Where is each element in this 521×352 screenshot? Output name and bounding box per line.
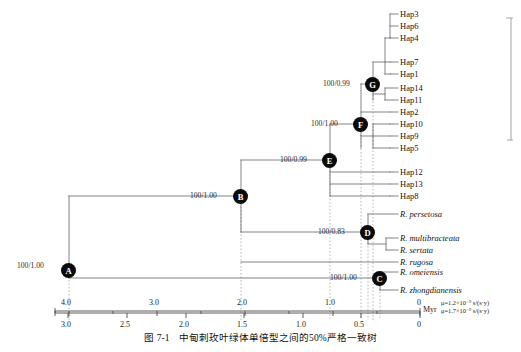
axis-bottom-label-05: 0.5 xyxy=(354,321,364,329)
support-value-node-g: 100/0.99 xyxy=(323,80,350,88)
tip-label-r-sertata: R. sertata xyxy=(400,246,433,255)
axis-bottom-label-15: 1.5 xyxy=(237,321,247,329)
tip-label-hap12: Hap12 xyxy=(400,168,423,177)
axis-top-label-3: 3.0 xyxy=(149,299,159,307)
node-marker-c[interactable]: C xyxy=(372,271,387,286)
tip-label-r-multibracteata: R. multibracteata xyxy=(400,234,460,243)
mutation-rate-top: μ=1.2×10⁻⁹ s/(s·y) xyxy=(441,299,489,306)
support-value-node-a: 100/1.00 xyxy=(17,262,44,270)
support-value-node-e: 100/0.99 xyxy=(280,156,307,164)
support-value-node-b: 100/1.00 xyxy=(190,192,217,200)
tip-label-r-rugosa: R. rugosa xyxy=(400,258,433,267)
node-marker-d[interactable]: D xyxy=(360,225,375,240)
support-value-node-d: 100/0.83 xyxy=(318,228,345,236)
axis-bottom-label-20: 2.0 xyxy=(179,321,189,329)
axis-top xyxy=(55,311,420,316)
tip-label-hap11: Hap11 xyxy=(400,96,422,105)
tip-label-hap6: Hap6 xyxy=(400,22,418,31)
figure-caption: 图 7-1 中甸刺玫叶绿体单倍型之间的50%严格一致树 xyxy=(0,331,521,344)
tip-label-hap14: Hap14 xyxy=(400,84,423,93)
tip-label-hap10: Hap10 xyxy=(400,120,423,129)
tip-label-r-persetosa: R. persetosa xyxy=(400,210,442,219)
axis-top-label-1: 1.0 xyxy=(325,299,335,307)
tree-branches xyxy=(69,14,398,290)
right-bracket xyxy=(506,18,513,140)
figure-caption-label: 图 7-1 xyxy=(144,332,169,343)
node-marker-b[interactable]: B xyxy=(233,189,248,204)
figure-caption-text: 中甸刺玫叶绿体单倍型之间的50%严格一致树 xyxy=(179,332,377,343)
axis-top-label-2: 2.0 xyxy=(237,299,247,307)
support-value-node-f: 100/1.00 xyxy=(311,120,338,128)
node-marker-e[interactable]: E xyxy=(322,153,337,168)
tip-label-hap13: Hap13 xyxy=(400,180,423,189)
node-marker-g[interactable]: G xyxy=(365,77,380,92)
mutation-rate-bottom: μ=1.7×10⁻⁹ s/(s·y) xyxy=(441,307,489,314)
tip-label-hap5: Hap5 xyxy=(400,144,418,153)
tip-label-hap9: Hap9 xyxy=(400,132,418,141)
axis-bottom-label-00: 0 xyxy=(417,321,421,329)
axis-bottom-label-25: 2.5 xyxy=(120,321,130,329)
axis-bottom-label-30: 3.0 xyxy=(61,321,71,329)
tip-label-hap2: Hap2 xyxy=(400,108,418,117)
axis-bottom-label-10: 1.0 xyxy=(296,321,306,329)
tip-label-hap7: Hap7 xyxy=(400,58,418,67)
axis-unit-label: Myr xyxy=(423,306,437,314)
node-marker-a[interactable]: A xyxy=(61,263,76,278)
tip-label-r-zhongdianensis: R. zhongdianensis xyxy=(400,286,462,295)
support-value-node-c: 100/1.00 xyxy=(330,274,357,282)
tip-label-hap3: Hap3 xyxy=(400,10,418,19)
tip-label-hap1: Hap1 xyxy=(400,70,418,79)
axis-top-label-4: 4.0 xyxy=(61,299,71,307)
tip-label-r-omeiensis: R. omeiensis xyxy=(400,268,443,277)
node-marker-f[interactable]: F xyxy=(353,117,368,132)
tip-label-hap4: Hap4 xyxy=(400,34,418,43)
axis-top-label-0: 0 xyxy=(417,299,421,307)
axis-bottom xyxy=(55,308,420,318)
tip-label-hap8: Hap8 xyxy=(400,192,418,201)
